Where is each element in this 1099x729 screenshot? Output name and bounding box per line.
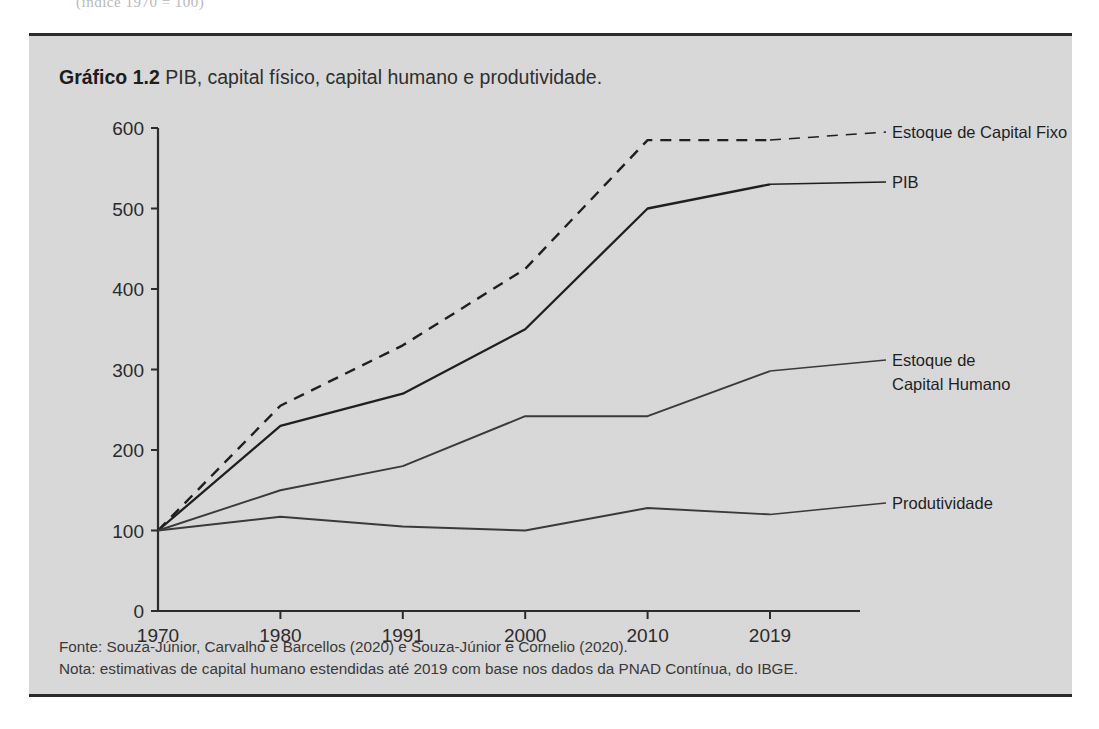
series-line-2: [158, 184, 770, 530]
series-label-2: PIB: [892, 173, 919, 191]
line-chart: 0100200300400500600197019801991200020102…: [29, 36, 1072, 700]
figure-note: Nota: estimativas de capital humano este…: [59, 658, 1049, 680]
series-label-1: Estoque de Capital Fixo: [892, 123, 1067, 141]
figure-container: Gráfico 1.2 PIB, capital físico, capital…: [29, 33, 1072, 697]
series-leader-line-1: [770, 132, 886, 140]
y-axis-tick-label: 100: [112, 521, 144, 542]
series-leader-line-2: [770, 182, 886, 184]
series-label-3: Capital Humano: [892, 375, 1010, 393]
page-canvas: (índice 1970 = 100) Gráfico 1.2 PIB, cap…: [0, 0, 1099, 729]
series-label-3: Estoque de: [892, 351, 975, 369]
series-label-4: Produtividade: [892, 494, 993, 512]
page-bleed-text: (índice 1970 = 100): [76, 0, 376, 20]
y-axis-tick-label: 400: [112, 279, 144, 300]
y-axis-tick-label: 600: [112, 118, 144, 139]
series-leader-line-4: [770, 503, 886, 514]
y-axis-tick-label: 0: [133, 601, 144, 622]
figure-footnotes: Fonte: Souza-Júnior, Carvalho e Barcello…: [59, 636, 1049, 680]
y-axis-tick-label: 500: [112, 199, 144, 220]
figure-source: Fonte: Souza-Júnior, Carvalho e Barcello…: [59, 636, 1049, 658]
y-axis-tick-label: 200: [112, 440, 144, 461]
series-leader-line-3: [770, 360, 886, 371]
y-axis-tick-label: 300: [112, 360, 144, 381]
series-line-1: [158, 140, 770, 530]
series-line-4: [158, 508, 770, 531]
